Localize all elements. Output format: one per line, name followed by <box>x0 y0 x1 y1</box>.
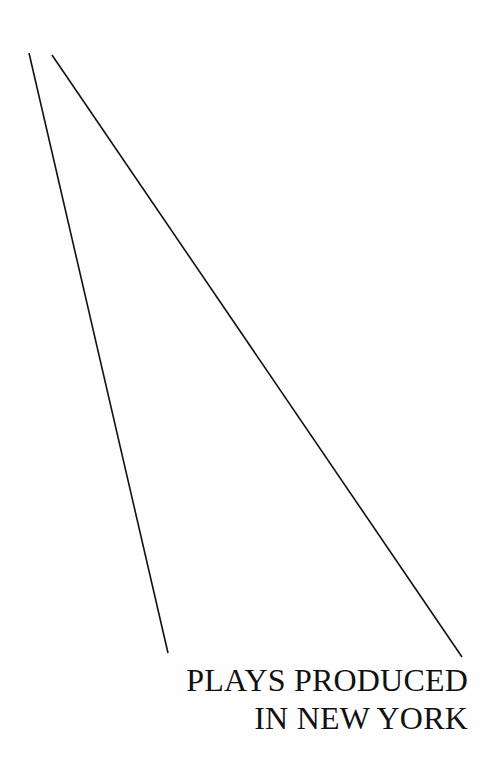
left-diagonal-line <box>29 53 168 653</box>
section-title: PLAYS PRODUCED IN NEW YORK <box>186 661 468 737</box>
right-diagonal-line <box>52 55 462 657</box>
section-title-line-2: IN NEW YORK <box>186 699 468 737</box>
section-title-line-1: PLAYS PRODUCED <box>186 661 468 699</box>
